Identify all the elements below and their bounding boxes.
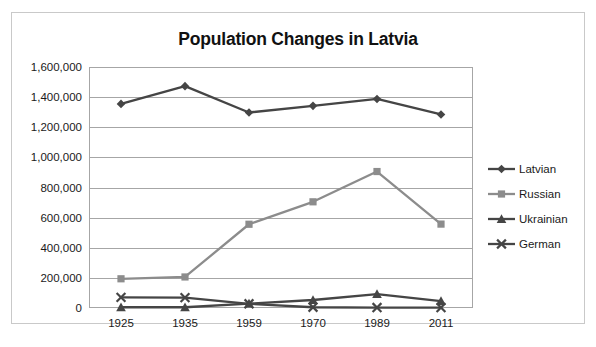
legend-label: German: [519, 238, 561, 250]
x-axis-tick-label: 1989: [364, 317, 390, 329]
series-russian: [117, 168, 444, 282]
data-point-marker: [373, 95, 382, 104]
data-point-marker: [309, 198, 316, 205]
x-axis-tick-label: 2011: [429, 317, 454, 329]
x-axis-tick-label: 1925: [108, 317, 134, 329]
chart-title: Population Changes in Latvia: [12, 29, 584, 50]
data-point-marker: [181, 273, 188, 280]
y-axis-tick-label: 1,000,000: [31, 151, 82, 163]
square-marker-icon: [487, 187, 516, 201]
data-point-marker: [309, 102, 318, 111]
triangle-marker-icon: [487, 212, 516, 226]
data-point-marker: [181, 82, 190, 91]
y-axis-tick-label: 800,000: [40, 182, 82, 194]
data-point-marker: [245, 221, 252, 228]
data-point-marker: [117, 275, 124, 282]
x-marker-icon: [487, 237, 516, 251]
diamond-marker-icon: [487, 162, 516, 176]
plot-area: 0200,000400,000600,000800,0001,000,0001,…: [89, 67, 473, 308]
series-line: [121, 172, 441, 279]
y-axis-tick-label: 0: [76, 302, 82, 314]
legend-item-latvian[interactable]: Latvian: [487, 156, 592, 181]
y-axis-tick-label: 1,200,000: [31, 121, 82, 133]
y-axis-tick-label: 600,000: [40, 212, 82, 224]
chart-legend: LatvianRussianUkrainianGerman: [487, 156, 592, 256]
data-point-marker: [117, 100, 126, 109]
data-point-marker: [245, 108, 254, 117]
y-axis-tick-label: 400,000: [40, 242, 82, 254]
data-point-marker: [373, 168, 380, 175]
y-axis-tick-label: 200,000: [40, 272, 82, 284]
y-axis-tick-label: 1,400,000: [31, 91, 82, 103]
series-line: [121, 86, 441, 114]
legend-item-ukrainian[interactable]: Ukrainian: [487, 206, 592, 231]
legend-label: Ukrainian: [519, 213, 568, 225]
x-axis-tick-label: 1970: [300, 317, 326, 329]
series-plot: [89, 67, 473, 308]
legend-label: Russian: [519, 188, 561, 200]
x-axis-tick-label: 1959: [236, 317, 262, 329]
legend-label: Latvian: [519, 163, 556, 175]
chart-container: Population Changes in Latvia 0200,000400…: [11, 12, 585, 324]
legend-item-russian[interactable]: Russian: [487, 181, 592, 206]
series-latvian: [117, 82, 446, 119]
data-point-marker: [437, 110, 446, 119]
legend-item-german[interactable]: German: [487, 231, 592, 256]
x-axis-tick-label: 1935: [172, 317, 198, 329]
y-axis-tick-label: 1,600,000: [31, 61, 82, 73]
data-point-marker: [437, 221, 444, 228]
